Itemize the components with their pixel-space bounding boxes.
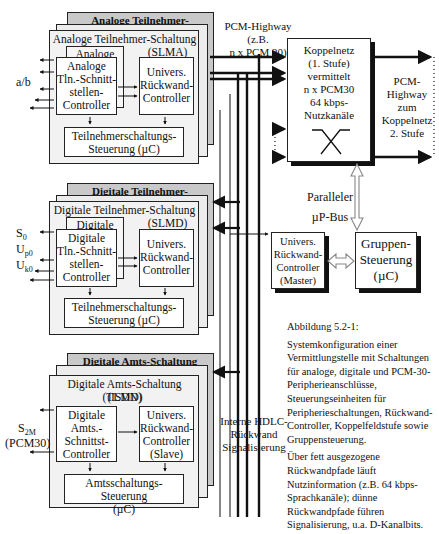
crossbar-icon xyxy=(312,130,350,154)
parallel-bus-arrow xyxy=(351,164,363,230)
master-group-bus-arrow xyxy=(328,254,354,268)
